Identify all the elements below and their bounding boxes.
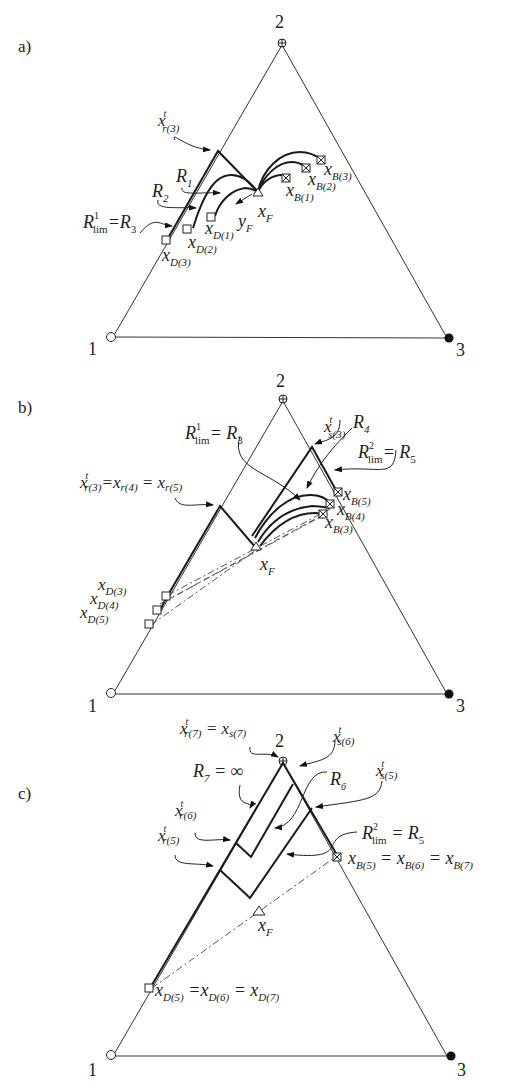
arrow-xr5 [175, 855, 213, 866]
vertex-3-filled-circle-icon [445, 690, 454, 699]
arrow-rlim2 [287, 832, 357, 855]
arrow-xr7 [250, 747, 278, 757]
arrow-yf [236, 194, 252, 204]
label-xd3: xD(3) [97, 575, 127, 598]
vertex-1-open-circle-icon [107, 1051, 116, 1060]
vertex-2-label: 2 [275, 731, 284, 751]
panel-label-c: c) [18, 784, 31, 803]
vertex-1-label: 1 [88, 339, 97, 359]
label-xs3: xts(3) [323, 414, 346, 441]
distillate-d4-square-icon [153, 606, 161, 614]
arrow-xs5 [316, 781, 382, 807]
panel-label-b: b) [18, 398, 32, 417]
label-xs6: xts(6) [332, 724, 355, 748]
feed-triangle-icon [253, 906, 265, 915]
label-r7: R7 = ∞ [192, 761, 243, 784]
panel-c: c) 2 1 3 xtr(7) = x [18, 716, 473, 1080]
label-xd3: xD(3) [161, 245, 191, 269]
vertex-1-open-circle-icon [107, 689, 116, 698]
label-yf: yF [236, 211, 253, 234]
mass-balance-line-5 [151, 550, 256, 625]
label-r4: R4 [352, 412, 370, 435]
arrow-r7 [239, 785, 251, 808]
mass-balance-line [152, 858, 334, 988]
label-xs5: xts(5) [375, 758, 398, 782]
distillate-square-icon [145, 984, 153, 992]
vertex-2-label: 2 [275, 12, 284, 32]
bottoms-b4-crossed-square-icon [326, 500, 334, 508]
label-xr-equality: xtr(3)=xr(4) = xr(5) [79, 470, 183, 494]
arrow-rlim1 [238, 436, 300, 500]
label-xd-equality: xD(5) =xD(6) = xD(7) [154, 980, 279, 1004]
arrow-xs6 [300, 740, 335, 766]
label-r2: R2 [151, 181, 169, 204]
distillate-d3-square-icon [162, 592, 170, 600]
panel-b: b) 2 1 3 [18, 371, 465, 716]
vertex-1-label: 1 [88, 696, 97, 716]
arrow-xr-eq [175, 498, 213, 505]
panel-a: a) 2 1 3 [18, 12, 465, 360]
vertex-1-label: 1 [88, 1060, 97, 1080]
distillate-d3-square-icon [162, 236, 170, 244]
profile-r3-left [168, 506, 256, 595]
vertex-2-marker-circle-plus-icon [279, 395, 287, 403]
profile-outer-edges [149, 763, 337, 990]
label-xr5: xtr(5) [157, 823, 180, 847]
label-xr3: xtr(3) [157, 108, 180, 135]
label-xb-equality: xB(5) = xB(6) = xB(7) [347, 848, 473, 872]
ternary-diagram-figure: a) 2 1 3 [0, 0, 527, 1092]
bottoms-crossed-square-icon [333, 853, 341, 861]
label-rlim-r3: R1lim=R3 [82, 210, 137, 235]
label-rlim2-r5: R2lim= R5 [357, 440, 416, 465]
profile-r1 [215, 188, 258, 216]
label-xf: xF [259, 554, 275, 577]
label-xb5: xB(5) [342, 484, 371, 508]
arrow-xr6 [195, 833, 230, 840]
label-r1: R1 [175, 166, 193, 189]
label-rlim2-r5: R2lim = R5 [361, 821, 425, 846]
label-rlim1-r3: R1lim= R3 [184, 421, 243, 446]
label-xr6: xtr(6) [174, 798, 197, 822]
vertex-2-label: 2 [276, 371, 285, 391]
vertex-3-label: 3 [457, 1060, 466, 1080]
distillate-d5-square-icon [145, 620, 153, 628]
vertex-3-label: 3 [456, 340, 465, 360]
label-xf: xF [257, 915, 273, 938]
label-xf: xF [257, 201, 273, 224]
panel-label-a: a) [18, 37, 31, 56]
vertex-2-marker-circle-plus-icon [278, 39, 286, 47]
profile-r2 [193, 175, 258, 228]
arrow-xr3 [174, 137, 210, 150]
vertex-1-open-circle-icon [107, 333, 116, 342]
label-xr7-xs7: xtr(7) = xs(7) [179, 716, 246, 740]
vertex-3-label: 3 [456, 696, 465, 716]
arrow-rlim [140, 222, 172, 233]
label-r6: R6 [329, 769, 346, 792]
vertex-3-filled-circle-icon [445, 334, 454, 343]
bottoms-b5-crossed-square-icon [334, 488, 342, 496]
profile-r5 [220, 808, 312, 898]
vertex-3-filled-circle-icon [447, 1052, 456, 1061]
label-xd1: xD(1) [204, 218, 234, 242]
